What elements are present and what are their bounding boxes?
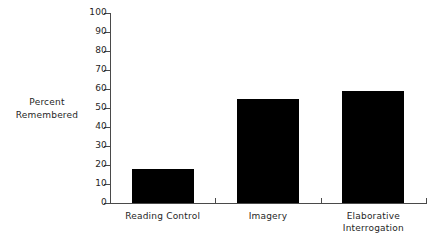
x-axis-category-label-line: Interrogation [321, 222, 426, 234]
y-axis-tick-label: 100 [89, 7, 107, 18]
x-axis-category-label-line: Imagery [215, 210, 320, 222]
x-axis-category-label: Imagery [215, 210, 320, 222]
y-axis-tick-label: 50 [95, 102, 107, 113]
bar [237, 99, 299, 204]
x-axis-category-label: ElaborativeInterrogation [321, 210, 426, 234]
plot-area [110, 13, 426, 203]
bar [342, 91, 404, 203]
y-axis-title-line-2: Remembered [8, 109, 86, 122]
y-axis-title-line-1: Percent [8, 96, 86, 109]
y-axis-tick-label: 90 [95, 26, 107, 37]
x-axis-tick [426, 198, 427, 204]
y-axis-title: Percent Remembered [8, 96, 86, 122]
y-axis-tick-label: 20 [95, 159, 107, 170]
x-axis-category-label-line: Reading Control [110, 210, 215, 222]
y-axis-tick-label: 0 [101, 197, 107, 208]
y-axis-tick-label: 30 [95, 140, 107, 151]
y-axis-tick-label: 10 [95, 178, 107, 189]
bar [132, 169, 194, 203]
x-axis-category-label: Reading Control [110, 210, 215, 222]
y-axis-tick-label: 80 [95, 45, 107, 56]
bar-chart: Percent Remembered 010203040506070809010… [0, 0, 442, 251]
y-axis-tick-label: 40 [95, 121, 107, 132]
x-axis-line [110, 203, 426, 204]
y-axis-tick-label: 70 [95, 64, 107, 75]
y-axis-tick-label: 60 [95, 83, 107, 94]
x-axis-category-label-line: Elaborative [321, 210, 426, 222]
